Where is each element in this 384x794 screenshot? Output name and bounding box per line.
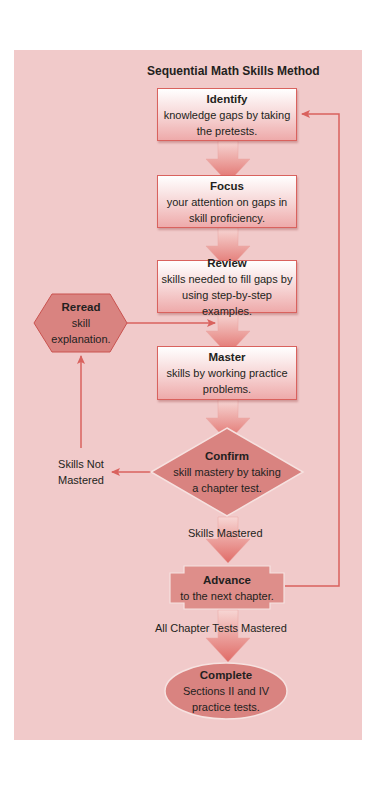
step-advance: Advance to the next chapter. [170, 570, 284, 606]
step-focus: Focus your attention on gaps in skill pr… [157, 175, 297, 228]
label-not-mastered: Skills Not Mastered [48, 456, 114, 488]
step-heading: Advance [203, 572, 251, 588]
step-text: using step-by-step examples. [158, 287, 296, 319]
step-identify: Identify knowledge gaps by taking the pr… [157, 88, 297, 141]
reread-text: explanation. [51, 331, 110, 347]
step-heading: Focus [210, 178, 244, 194]
diagram-title: Sequential Math Skills Method [147, 64, 320, 78]
step-text: to the next chapter. [180, 588, 274, 604]
step-text: your attention on gaps in [167, 194, 287, 210]
label-line: Skills Not [48, 456, 114, 472]
step-master: Master skills by working practice proble… [157, 346, 297, 400]
reread-heading: Reread [62, 299, 101, 315]
step-heading: Review [207, 255, 247, 271]
step-text: knowledge gaps by taking [164, 107, 291, 123]
step-heading: Master [208, 349, 245, 365]
step-heading: Confirm [205, 448, 249, 464]
step-confirm: Confirm skill mastery by taking a chapte… [160, 448, 294, 496]
step-text: the pretests. [197, 123, 258, 139]
step-text: skills needed to fill gaps by [162, 271, 293, 287]
step-text: Sections II and IV [183, 683, 269, 699]
step-text: skill mastery by taking [173, 464, 281, 480]
step-text: a chapter test. [192, 480, 262, 496]
step-heading: Identify [207, 91, 248, 107]
step-text: skills by working practice [166, 365, 287, 381]
step-text: practice tests. [192, 699, 260, 715]
step-text: problems. [203, 381, 251, 397]
reread-node: Reread skill explanation. [40, 298, 122, 348]
label-all-mastered: All Chapter Tests Mastered [155, 620, 287, 636]
step-review: Review skills needed to fill gaps by usi… [157, 260, 297, 313]
step-text: skill proficiency. [189, 210, 265, 226]
step-complete: Complete Sections II and IV practice tes… [166, 666, 286, 716]
label-mastered: Skills Mastered [188, 525, 263, 541]
step-heading: Complete [200, 667, 252, 683]
label-line: Mastered [48, 472, 114, 488]
reread-text: skill [72, 315, 90, 331]
